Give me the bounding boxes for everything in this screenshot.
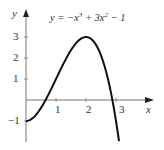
equation-label: y = −x3 + 3x2 − 1 (50, 12, 126, 24)
y-axis-arrow-icon (23, 9, 29, 17)
eq-part: + 3x (82, 12, 104, 23)
x-tick-label-2: 2 (86, 104, 92, 115)
x-tick-label-1: 1 (55, 104, 61, 115)
eq-part: y = −x (50, 12, 79, 23)
y-tick-label-neg1: −1 (8, 115, 20, 126)
x-tick-label-3: 3 (119, 104, 125, 115)
y-tick-label-1: 1 (13, 73, 19, 84)
eq-part: − 1 (108, 12, 126, 23)
x-axis-label: x (146, 104, 151, 115)
y-axis-label: y (12, 8, 17, 19)
y-tick-label-3: 3 (13, 31, 19, 42)
y-tick-label-2: 2 (13, 52, 19, 63)
function-curve (26, 37, 119, 141)
